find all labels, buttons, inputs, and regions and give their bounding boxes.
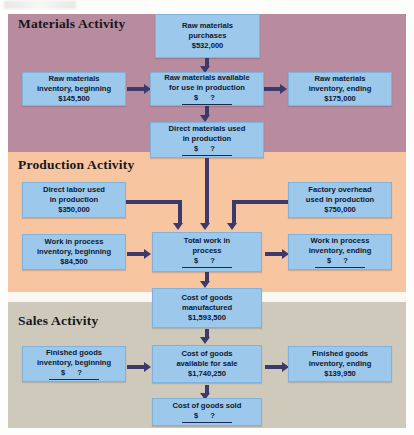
box-line-1: Direct labor used <box>43 185 105 195</box>
box-line-2: inventory, beginning <box>37 84 111 94</box>
box-value: $1,593,500 <box>188 313 226 323</box>
box-raw-materials-inventory-ending[interactable]: Raw materials inventory, ending $175,000 <box>288 72 392 106</box>
box-value-blank: $ ? <box>182 93 232 105</box>
arrow-factory-overhead-elbow-vertical <box>232 200 236 224</box>
arrow-factory-overhead-elbow-horizontal <box>232 200 288 204</box>
box-value: $84,500 <box>60 257 87 267</box>
box-line-2: in production <box>183 134 232 144</box>
box-line-2: process <box>192 246 221 256</box>
box-wip-inventory-ending[interactable]: Work in process inventory, ending $ ? <box>288 234 392 270</box>
box-line-2: available for sale <box>176 359 237 369</box>
box-value-blank: $ ? <box>182 144 232 156</box>
box-line-1: Finished goods <box>312 349 368 359</box>
arrow-direct-labor-to-wip-head <box>173 223 183 230</box>
box-raw-materials-inventory-beginning[interactable]: Raw materials inventory, beginning $145,… <box>22 72 126 106</box>
arrow-direct-materials-to-wip-shaft <box>205 158 209 224</box>
box-line-1: Raw materials <box>182 21 233 31</box>
box-line-1: Raw materials available <box>164 73 249 83</box>
band-title-materials: Materials Activity <box>18 16 125 32</box>
box-direct-materials-used[interactable]: Direct materials used in production $ ? <box>150 122 264 158</box>
band-title-sales: Sales Activity <box>18 313 98 329</box>
box-line-1: Cost of goods <box>181 293 232 303</box>
scan-artifact <box>4 1 76 9</box>
arrow-wip-beginning-to-total-head <box>144 249 151 259</box>
box-line-1: Direct materials used <box>169 124 246 134</box>
cost-flow-diagram: Materials Activity Production Activity S… <box>0 0 414 435</box>
arrow-available-to-rm-ending-shaft <box>263 87 281 91</box>
arrow-direct-labor-elbow-horizontal <box>126 200 182 204</box>
box-raw-materials-available-for-use[interactable]: Raw materials available for use in produ… <box>150 72 264 106</box>
arrow-wip-beginning-to-total-shaft <box>127 252 145 256</box>
box-value: $175,000 <box>324 94 356 104</box>
arrow-fg-beginning-to-available-shaft <box>127 365 145 369</box>
box-line-2: purchases <box>189 31 227 41</box>
box-finished-goods-inventory-beginning[interactable]: Finished goods inventory, beginning $ ? <box>22 346 126 382</box>
box-value-blank: $ ? <box>315 256 365 268</box>
box-value: $139,950 <box>324 369 356 379</box>
box-line-2: inventory, ending <box>309 246 372 256</box>
box-line-1: Raw materials <box>48 74 99 84</box>
box-line-2: inventory, ending <box>309 84 372 94</box>
arrow-total-wip-to-ending-shaft <box>265 252 283 256</box>
band-title-production: Production Activity <box>18 157 134 173</box>
arrow-total-wip-to-cogm-head <box>200 281 210 288</box>
box-line-2: manufactured <box>182 303 232 313</box>
box-line-1: Work in process <box>311 236 370 246</box>
arrow-rm-beginning-to-available-shaft <box>127 87 145 91</box>
box-value-blank: $ ? <box>182 256 232 268</box>
box-line-1: Factory overhead <box>308 185 371 195</box>
box-total-work-in-process[interactable]: Total work in process $ ? <box>152 232 262 272</box>
box-value: $532,000 <box>192 41 224 51</box>
arrow-available-to-fg-ending-shaft <box>265 365 283 369</box>
box-line-2: inventory, ending <box>309 359 372 369</box>
box-finished-goods-inventory-ending[interactable]: Finished goods inventory, ending $139,95… <box>288 346 392 382</box>
box-value: $750,000 <box>324 205 356 215</box>
box-line-1: Cost of goods <box>181 349 232 359</box>
box-cost-of-goods-available-for-sale[interactable]: Cost of goods available for sale $1,740,… <box>152 345 262 383</box>
box-cost-of-goods-manufactured[interactable]: Cost of goods manufactured $1,593,500 <box>152 288 262 328</box>
box-line-2: in production <box>50 195 99 205</box>
box-cost-of-goods-sold[interactable]: Cost of goods sold $ ? <box>152 398 262 426</box>
box-line-2: inventory, beginning <box>37 358 111 368</box>
box-line-1: Total work in <box>184 236 230 246</box>
box-line-2: used in production <box>306 195 374 205</box>
arrow-available-to-rm-ending-head <box>280 84 287 94</box>
box-line-2: inventory, beginning <box>37 247 111 257</box>
arrow-cogm-to-available-head <box>200 337 210 344</box>
box-value-blank: $ ? <box>182 411 232 423</box>
box-line-1: Cost of goods sold <box>173 401 242 411</box>
box-factory-overhead-used[interactable]: Factory overhead used in production $750… <box>288 182 392 218</box>
box-value-blank: $ ? <box>49 368 99 380</box>
box-line-2: for use in production <box>169 83 245 93</box>
box-direct-labor-used[interactable]: Direct labor used in production $350,000 <box>22 182 126 218</box>
arrow-fg-beginning-to-available-head <box>144 362 151 372</box>
arrow-direct-materials-to-wip-head <box>200 223 210 230</box>
arrow-direct-labor-elbow-vertical <box>178 200 182 224</box>
box-value: $350,000 <box>58 205 90 215</box>
box-wip-inventory-beginning[interactable]: Work in process inventory, beginning $84… <box>22 234 126 270</box>
box-line-1: Finished goods <box>46 348 102 358</box>
box-value: $1,740,250 <box>188 369 226 379</box>
arrow-available-to-direct-materials-head <box>200 115 210 122</box>
box-line-1: Work in process <box>45 237 104 247</box>
box-raw-materials-purchases[interactable]: Raw materials purchases $532,000 <box>155 14 260 58</box>
box-value: $145,500 <box>58 94 90 104</box>
arrow-factory-overhead-to-wip-head <box>227 223 237 230</box>
box-line-1: Raw materials <box>314 74 365 84</box>
